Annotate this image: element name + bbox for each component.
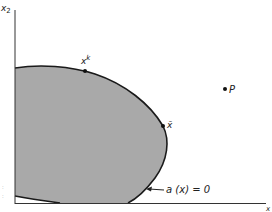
point-xk-label: xk [80,54,91,66]
point-xbar-label: x̄ [166,120,173,130]
point-xbar [161,124,165,128]
feasible-region [15,66,167,203]
margin-mark-2: : [2,193,4,199]
x-axis-label: x [265,205,271,212]
margin-mark-1: : [2,184,4,190]
boundary-label: a (x) = 0 [166,184,210,195]
feasible-region-diagram: x2 x xk x̄ P a (x) = 0 : : [0,0,272,212]
point-p [223,87,227,91]
point-xk [83,69,87,73]
y-axis-label: x2 [0,3,11,15]
point-p-label: P [229,84,236,95]
